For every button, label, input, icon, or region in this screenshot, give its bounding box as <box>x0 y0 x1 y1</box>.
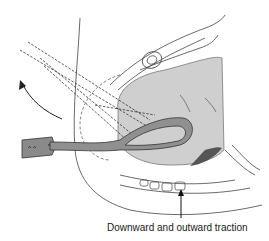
figure-caption: Downward and outward traction <box>107 222 248 233</box>
rotation-arrow <box>22 83 62 119</box>
anatomy-drawing <box>0 0 269 241</box>
vacuum-extraction-illustration: Downward and outward traction <box>0 0 269 241</box>
